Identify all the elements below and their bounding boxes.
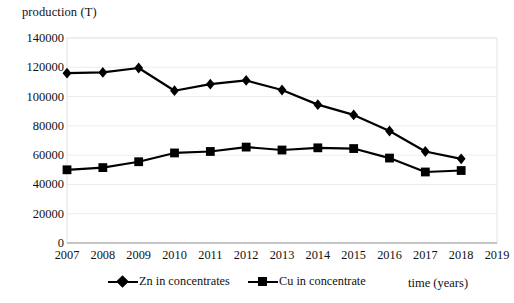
diamond-marker xyxy=(242,75,251,86)
square-marker xyxy=(421,168,430,177)
x-axis-tick-label: 2014 xyxy=(306,249,331,261)
series-line xyxy=(67,147,461,172)
data-series xyxy=(63,143,466,177)
x-axis-tick-label: 2011 xyxy=(198,249,222,261)
square-marker xyxy=(242,143,251,152)
chart-legend: Zn in concentrates Cu in concentrate xyxy=(0,274,514,296)
x-axis-tick-label: 2008 xyxy=(91,249,116,261)
x-axis-tick-label: 2007 xyxy=(55,249,80,261)
square-marker xyxy=(349,144,358,153)
x-axis-tick-label: 2019 xyxy=(485,249,510,261)
square-marker xyxy=(206,147,215,156)
diamond-marker xyxy=(170,85,179,96)
diamond-marker xyxy=(134,63,143,74)
x-axis-tick-label: 2012 xyxy=(234,249,259,261)
legend-item-cu: Cu in concentrate xyxy=(248,274,366,289)
legend-label-cu: Cu in concentrate xyxy=(279,274,366,289)
data-series-layer xyxy=(63,63,466,177)
diamond-marker xyxy=(63,68,72,79)
square-marker xyxy=(278,146,287,155)
square-marker xyxy=(98,163,107,172)
diamond-marker xyxy=(385,126,394,137)
square-marker xyxy=(457,166,466,175)
x-axis-tick-label: 2016 xyxy=(377,249,402,261)
x-axis-tick-label: 2013 xyxy=(270,249,295,261)
square-marker xyxy=(385,154,394,163)
diamond-marker xyxy=(206,79,215,90)
diamond-marker xyxy=(278,85,287,96)
square-marker xyxy=(63,165,72,174)
diamond-marker xyxy=(98,67,107,78)
diamond-marker xyxy=(349,109,358,120)
square-marker xyxy=(170,149,179,158)
square-marker xyxy=(134,157,143,166)
diamond-marker-icon xyxy=(108,275,138,289)
x-axis-tick-label: 2010 xyxy=(162,249,187,261)
gridlines xyxy=(67,38,497,214)
production-line-chart: production (T) 1400001200001000008000060… xyxy=(0,0,514,303)
legend-item-zn: Zn in concentrates xyxy=(108,274,230,289)
series-line xyxy=(67,68,461,159)
x-axis-tick-label: 2018 xyxy=(449,249,474,261)
square-marker-icon xyxy=(248,275,278,289)
diamond-marker xyxy=(313,99,322,110)
x-axis-tick-label: 2015 xyxy=(341,249,366,261)
legend-label-zn: Zn in concentrates xyxy=(139,274,230,289)
square-marker xyxy=(313,143,322,152)
x-axis-tick-label: 2009 xyxy=(126,249,151,261)
x-axis-tick-label: 2017 xyxy=(413,249,438,261)
